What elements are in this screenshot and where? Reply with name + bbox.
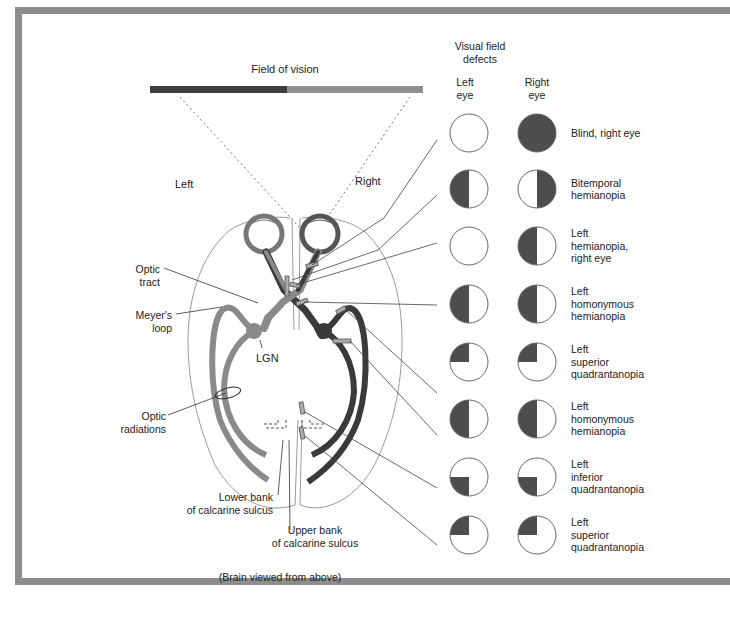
side-label-left: Left	[175, 178, 193, 191]
field-bar-left-half	[150, 86, 287, 93]
defect-label: Lefthemianopia,right eye	[571, 227, 628, 265]
defect-circle-lower-left-quadrant	[518, 458, 556, 496]
defect-label: Lefthomonymoushemianopia	[571, 285, 634, 323]
defect-circle-upper-left-quadrant	[450, 343, 488, 381]
defect-circle-upper-left-quadrant	[450, 516, 488, 554]
left-eye	[246, 216, 282, 252]
label-optic-tract: Optic tract	[100, 263, 160, 288]
field-of-vision-title: Field of vision	[200, 63, 370, 76]
defect-circle-left-half	[518, 285, 556, 323]
defect-circle-left-half	[518, 227, 556, 265]
defect-label: Blind, right eye	[571, 127, 640, 140]
defect-circle-left-half	[450, 170, 488, 208]
label-lgn: LGN	[256, 352, 279, 365]
side-label-right: Right	[355, 175, 381, 188]
defect-circles	[450, 114, 556, 554]
defect-circle-right-half	[518, 170, 556, 208]
column-header-left-eye: Left eye	[445, 76, 485, 101]
label-lower-bank: Lower bank of calcarine sulcus	[160, 491, 273, 516]
right-eye	[302, 216, 338, 252]
defect-circle-left-half	[450, 400, 488, 438]
defect-label: Lefthomonymoushemianopia	[571, 400, 634, 438]
field-bar-right-half	[287, 86, 423, 93]
defect-circle-left-half	[450, 285, 488, 323]
projection-lines	[180, 97, 410, 250]
defect-label: Leftsuperiorquadrantanopia	[571, 343, 644, 381]
defect-label: Leftinferiorquadrantanopia	[571, 458, 644, 496]
defect-label: Bitemporalhemianopia	[571, 177, 625, 202]
defect-circle-upper-left-quadrant	[518, 343, 556, 381]
defect-circle-lower-left-quadrant	[450, 458, 488, 496]
defect-circle-upper-left-quadrant	[518, 516, 556, 554]
defect-circle-none	[450, 227, 488, 265]
defects-header: Visual field defects	[430, 40, 530, 65]
label-meyers-loop: Meyer's loop	[100, 309, 172, 334]
caption: (Brain viewed from above)	[180, 571, 380, 584]
defect-circle-full	[518, 114, 556, 152]
defect-circle-left-half	[518, 400, 556, 438]
calcarine-sulcus	[262, 420, 326, 428]
defect-circle-none	[450, 114, 488, 152]
label-upper-bank: Upper bank of calcarine sulcus	[245, 524, 385, 549]
column-header-right-eye: Right eye	[517, 76, 557, 101]
label-optic-radiations: Optic radiations	[100, 410, 166, 435]
defect-label: Leftsuperiorquadrantanopia	[571, 516, 644, 554]
